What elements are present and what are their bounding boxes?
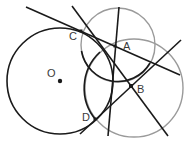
geometry-diagram: O C A B D [0, 0, 192, 145]
point-D [94, 118, 97, 121]
label-D: D [82, 111, 90, 123]
line-A-vertical [108, 7, 119, 136]
label-C: C [69, 30, 77, 42]
line-CA [26, 7, 180, 75]
label-A: A [123, 40, 131, 52]
point-B [129, 84, 133, 88]
label-B: B [137, 83, 144, 95]
point-A [114, 45, 117, 48]
arc-lower-black [84, 52, 100, 120]
label-O: O [47, 67, 56, 79]
point-C [80, 30, 83, 33]
point-O [58, 79, 62, 83]
circle-lower [85, 39, 183, 137]
